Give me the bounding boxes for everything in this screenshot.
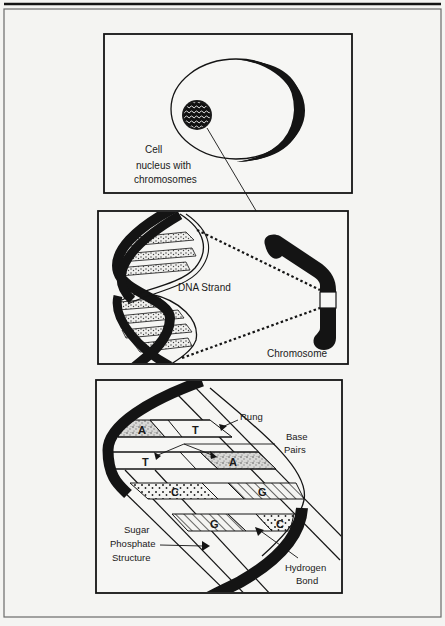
figure: Cell nucleus with chromosomes (0, 0, 445, 626)
cell-label: Cell (145, 144, 162, 155)
base-letter: C (171, 486, 179, 498)
nucleus-label-line1: nucleus with (136, 160, 191, 171)
chromosome-label: Chromosome (267, 348, 327, 359)
sugar-label-line3: Structure (112, 552, 151, 563)
base-letter: G (210, 518, 219, 530)
base-letter: T (192, 424, 199, 436)
sugar-label-line1: Sugar (124, 524, 149, 535)
base-letter: T (142, 456, 149, 468)
base-letter: A (138, 424, 146, 436)
base-letter: A (229, 456, 237, 468)
base-letter: G (258, 486, 267, 498)
base-letter: C (276, 518, 284, 530)
rung-label: Rung (240, 411, 263, 422)
dna-strand-label: DNA Strand (178, 282, 231, 293)
base-pair-row-2 (112, 452, 276, 469)
nucleus-label-line2: chromosomes (134, 174, 197, 185)
diagram-canvas: Cell nucleus with chromosomes (0, 0, 445, 626)
dna-panel: DNA Strand Chromosome (98, 206, 348, 372)
hydrogen-label-line1: Hydrogen (285, 562, 326, 573)
hydrogen-label-line2: Bond (296, 575, 318, 586)
sugar-label-line2: Phosphate (110, 538, 155, 549)
nucleus-icon (182, 100, 212, 130)
base-pairs-label-line2: Pairs (284, 444, 306, 455)
cell-panel: Cell nucleus with chromosomes (104, 34, 352, 193)
base-pairs-panel: A T T A C G (96, 380, 345, 610)
base-pair-row-3 (130, 483, 304, 499)
base-pairs-label-line1: Base (286, 431, 308, 442)
